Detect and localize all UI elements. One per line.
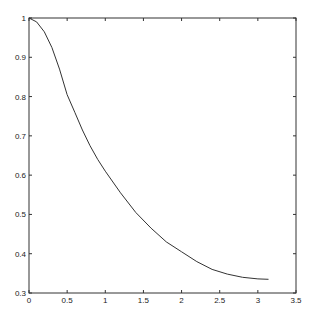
- axes: 00.511.522.533.50.30.40.50.60.70.80.91: [15, 14, 302, 305]
- y-tick-label: 0.4: [15, 250, 27, 259]
- y-tick-label: 0.3: [15, 289, 27, 298]
- y-tick-label: 0.5: [15, 210, 27, 219]
- x-tick-label: 2.5: [214, 296, 226, 305]
- x-tick-label: 3: [256, 296, 261, 305]
- y-tick-label: 0.9: [15, 53, 27, 62]
- y-tick-label: 0.7: [15, 132, 27, 141]
- x-tick-label: 3.5: [290, 296, 302, 305]
- line-chart: 00.511.522.533.50.30.40.50.60.70.80.91: [0, 0, 315, 320]
- x-tick-label: 1.5: [138, 296, 150, 305]
- x-tick-label: 1: [103, 296, 108, 305]
- plot-frame: [29, 18, 296, 293]
- y-tick-label: 1: [22, 14, 27, 23]
- x-tick-label: 0: [27, 296, 32, 305]
- y-tick-label: 0.6: [15, 171, 27, 180]
- x-tick-label: 2: [179, 296, 184, 305]
- y-tick-label: 0.8: [15, 93, 27, 102]
- data-line: [29, 18, 269, 279]
- x-tick-label: 0.5: [62, 296, 74, 305]
